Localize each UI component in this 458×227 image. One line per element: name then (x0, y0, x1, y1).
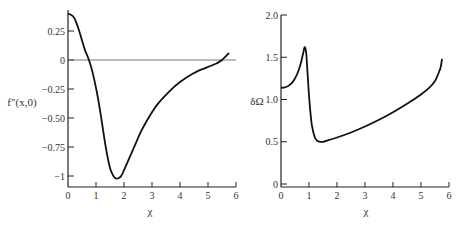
x-tick-label: 3 (150, 190, 155, 201)
x-tick-label: 2 (122, 190, 127, 201)
x-tick-label: 0 (66, 190, 71, 201)
x-tick-label: 0 (279, 190, 284, 201)
y-tick-label: 0 (60, 55, 65, 66)
y-tick-label: 0.25 (48, 26, 66, 37)
chart-delta-omega: 012345600.51.01.52.0δΩχ (250, 10, 451, 218)
y-tick-label: 0 (273, 179, 278, 190)
x-axis-title: χ (147, 205, 153, 217)
y-tick-label: 0.5 (266, 136, 279, 147)
y-tick-label: 1.5 (266, 52, 279, 63)
data-series-line (68, 14, 229, 179)
x-tick-label: 6 (234, 190, 239, 201)
y-axis-title: δΩ (250, 95, 263, 107)
y-tick-label: −1 (54, 171, 65, 182)
x-axis-title: χ (363, 205, 369, 217)
data-series-line (281, 47, 442, 142)
y-tick-label: −0.25 (42, 84, 65, 95)
y-axis-title: f″(x,0) (7, 96, 37, 109)
x-tick-label: 2 (335, 190, 340, 201)
figure: 01234560.250−0.25−0.50−0.75−1f″(x,0)χ 01… (0, 0, 458, 227)
y-tick-label: 2.0 (266, 10, 279, 21)
x-tick-label: 4 (178, 190, 183, 201)
x-tick-label: 1 (94, 190, 99, 201)
y-tick-label: 1.0 (266, 94, 279, 105)
x-tick-label: 5 (419, 190, 424, 201)
x-tick-label: 5 (206, 190, 211, 201)
x-tick-label: 1 (307, 190, 312, 201)
chart-f-double-prime: 01234560.250−0.25−0.50−0.75−1f″(x,0)χ (7, 10, 238, 217)
x-tick-label: 6 (447, 190, 452, 201)
y-tick-label: −0.50 (42, 113, 65, 124)
y-tick-label: −0.75 (42, 142, 65, 153)
x-tick-label: 3 (363, 190, 368, 201)
x-tick-label: 4 (391, 190, 396, 201)
